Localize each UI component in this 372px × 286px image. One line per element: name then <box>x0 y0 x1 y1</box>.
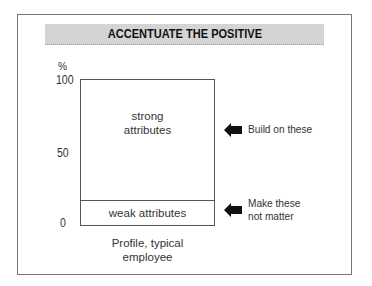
strong-segment-label: strong attributes <box>80 109 215 137</box>
x-label-line2: employee <box>80 250 215 264</box>
segment-divider <box>80 200 215 201</box>
annotation-weak-line2: not matter <box>248 210 300 223</box>
y-tick-50: 50 <box>57 146 69 160</box>
x-label-line1: Profile, typical <box>80 236 215 250</box>
x-axis-label: Profile, typical employee <box>80 236 215 264</box>
annotation-strong: Build on these <box>248 123 312 135</box>
title-bar: ACCENTUATE THE POSITIVE <box>45 24 324 45</box>
strong-label-line1: strong <box>80 109 215 123</box>
annotation-weak: Make these not matter <box>248 197 300 223</box>
figure-title: ACCENTUATE THE POSITIVE <box>107 27 261 41</box>
y-axis-unit: % <box>58 60 67 72</box>
arrow-left-icon <box>224 203 242 217</box>
weak-segment-label: weak attributes <box>80 206 215 220</box>
stacked-bar <box>80 79 215 226</box>
arrow-left-icon <box>224 123 242 137</box>
annotation-weak-line1: Make these <box>248 197 300 210</box>
y-tick-0: 0 <box>60 216 66 230</box>
y-tick-100: 100 <box>56 73 74 87</box>
strong-label-line2: attributes <box>80 123 215 137</box>
